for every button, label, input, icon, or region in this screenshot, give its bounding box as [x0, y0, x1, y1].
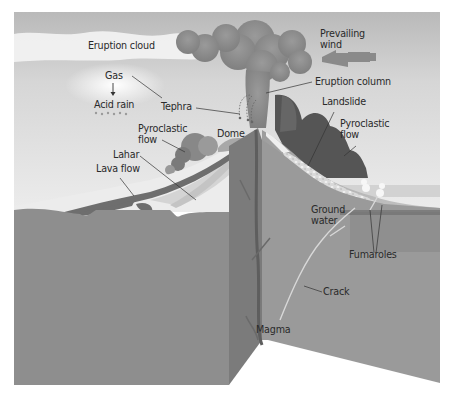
label-eruption-column: Eruption column — [315, 76, 391, 87]
label-ground-water: Ground water — [311, 204, 345, 226]
ground-water-layer — [350, 212, 440, 252]
label-lava-flow: Lava flow — [96, 163, 140, 174]
label-landslide: Landslide — [322, 96, 366, 107]
label-dome: Dome — [217, 128, 245, 139]
label-crack: Crack — [323, 286, 349, 297]
ground-front-face — [14, 209, 229, 385]
label-tephra: Tephra — [161, 101, 192, 112]
label-magma: Magma — [256, 324, 290, 335]
label-lahar: Lahar — [113, 149, 139, 160]
volcano-diagram — [0, 0, 453, 400]
label-pyroclastic-flow-left: Pyroclastic flow — [138, 123, 187, 145]
label-eruption-cloud: Eruption cloud — [88, 40, 155, 51]
label-pyroclastic-flow-right: Pyroclastic flow — [340, 118, 389, 140]
label-prevailing-wind: Prevailing wind — [320, 28, 365, 50]
label-fumaroles: Fumaroles — [349, 249, 397, 260]
label-gas: Gas — [105, 70, 123, 81]
label-acid-rain: Acid rain — [94, 99, 134, 110]
